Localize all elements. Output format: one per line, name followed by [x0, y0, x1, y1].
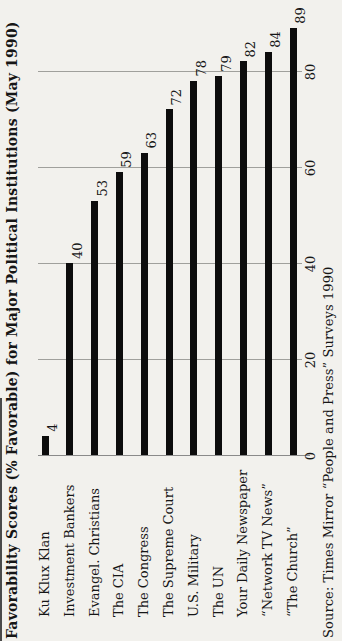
category-label: The UN — [211, 566, 227, 617]
category-label: “The Church” — [285, 526, 301, 617]
bar-value-label: 59 — [120, 151, 133, 168]
plot-area: 020406080Ku Klux Klan4Investment Bankers… — [0, 0, 342, 641]
axis-tick-label: 40 — [304, 256, 318, 273]
bar — [166, 109, 173, 455]
chart-rotated-canvas: Favorability Scores (% Favorable) for Ma… — [0, 0, 342, 641]
value-axis-zero-line — [38, 455, 310, 456]
axis-tick-label: 0 — [304, 452, 318, 460]
axis-tick-label: 80 — [304, 64, 318, 81]
bar-value-label: 78 — [195, 60, 208, 77]
bar-value-label: 4 — [46, 424, 59, 432]
bar — [91, 201, 98, 455]
axis-tick-label: 20 — [304, 352, 318, 369]
bar-value-label: 40 — [71, 242, 84, 259]
bar-value-label: 53 — [96, 180, 109, 197]
bar-value-label: 79 — [220, 55, 233, 72]
category-label: The Supreme Court — [161, 487, 177, 617]
source-note: Source: Times Mirror “People and Press” … — [321, 267, 337, 638]
bar-value-label: 72 — [170, 89, 183, 106]
bar — [215, 76, 222, 455]
category-label: U.S. Military — [186, 534, 202, 617]
category-label: The Congress — [136, 526, 152, 617]
bar-value-label: 82 — [244, 41, 257, 58]
page-edge-scan-artifact — [0, 398, 2, 641]
category-label: The CIA — [111, 564, 127, 617]
bar-value-label: 63 — [145, 132, 158, 149]
bar — [240, 61, 247, 455]
category-label: Ku Klux Klan — [37, 531, 53, 617]
scanned-page: Favorability Scores (% Favorable) for Ma… — [0, 0, 342, 641]
bar — [116, 172, 123, 455]
bar-value-label: 84 — [269, 31, 282, 48]
axis-tick-label: 60 — [304, 160, 318, 177]
category-label: Your Daily Newspaper — [235, 470, 251, 617]
bar-value-label: 89 — [294, 7, 307, 24]
category-label: “Network TV News” — [260, 483, 276, 617]
bar — [66, 263, 73, 455]
bar — [141, 153, 148, 455]
bar — [265, 52, 272, 455]
gridline — [38, 71, 302, 72]
bar — [290, 28, 297, 455]
category-label: Evangel. Christians — [87, 488, 103, 617]
category-label: Investment Bankers — [62, 485, 78, 617]
bar — [42, 436, 49, 455]
bar — [190, 81, 197, 455]
